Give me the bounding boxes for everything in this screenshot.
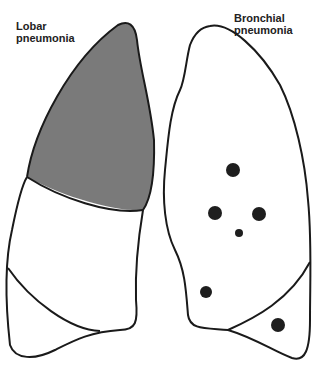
right-fissure bbox=[228, 262, 310, 330]
patch bbox=[235, 229, 243, 237]
patch bbox=[208, 206, 222, 220]
left-lung bbox=[6, 23, 154, 357]
left-lower-fissure bbox=[8, 268, 100, 331]
lung-diagram bbox=[0, 0, 317, 367]
patch bbox=[200, 286, 212, 298]
right-lung bbox=[164, 26, 311, 359]
patch bbox=[226, 163, 240, 177]
patch bbox=[271, 318, 285, 332]
patch bbox=[252, 207, 266, 221]
bronchial-patches bbox=[200, 163, 285, 332]
right-lung-outline bbox=[164, 26, 311, 359]
